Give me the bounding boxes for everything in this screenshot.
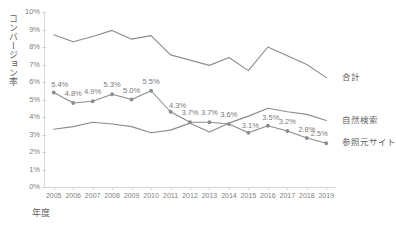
x-tick-label: 2007 — [85, 192, 101, 199]
data-point-marker — [247, 131, 251, 135]
data-point-marker — [52, 91, 56, 95]
x-tick — [326, 187, 327, 190]
y-tick-label: 10% — [25, 8, 40, 16]
data-label: 3.1% — [242, 122, 259, 130]
x-tick — [73, 187, 74, 190]
x-tick-label: 2018 — [299, 192, 315, 199]
series-label: 自然検索 — [342, 116, 378, 125]
data-point-marker — [130, 98, 134, 102]
data-point-marker — [188, 120, 192, 124]
x-tick — [268, 187, 269, 190]
x-tick — [209, 187, 210, 190]
y-tick-label: 3% — [29, 131, 40, 139]
x-tick — [151, 187, 152, 190]
data-label: 3.6% — [220, 111, 237, 119]
x-tick — [287, 187, 288, 190]
data-label: 2.5% — [311, 131, 328, 139]
data-point-marker — [149, 89, 153, 93]
y-tick-label: 1% — [29, 166, 40, 174]
x-tick-label: 2005 — [46, 192, 62, 199]
data-label: 3.5% — [262, 114, 279, 122]
y-axis-title: コンバージョン率 — [4, 14, 18, 86]
data-label: 3.7% — [201, 110, 218, 118]
x-tick-label: 2006 — [65, 192, 81, 199]
x-tick — [93, 187, 94, 190]
data-point-marker — [227, 122, 231, 126]
data-point-marker — [285, 129, 289, 133]
x-tick — [112, 187, 113, 190]
data-point-marker — [305, 136, 309, 140]
series-label: 合計 — [342, 73, 360, 82]
x-tick-label: 2014 — [221, 192, 237, 199]
x-tick-label: 2015 — [241, 192, 257, 199]
x-tick-label: 2019 — [318, 192, 334, 199]
x-tick — [307, 187, 308, 190]
data-point-marker — [110, 92, 114, 96]
data-label: 5.4% — [51, 81, 68, 89]
y-tick-label: 7% — [29, 61, 40, 69]
y-tick-label: 5% — [29, 96, 40, 104]
x-tick — [171, 187, 172, 190]
y-tick-label: 8% — [29, 43, 40, 51]
y-tick-label: 6% — [29, 78, 40, 86]
data-point-marker — [208, 120, 212, 124]
data-point-marker — [169, 110, 173, 114]
y-tick-label: 4% — [29, 113, 40, 121]
y-tick — [42, 187, 46, 188]
x-tick-label: 2010 — [143, 192, 159, 199]
data-point-marker — [71, 101, 75, 105]
data-label: 4.8% — [65, 90, 82, 98]
x-tick-label: 2013 — [202, 192, 218, 199]
series-label: 参照元サイト — [342, 138, 396, 147]
data-label: 3.7% — [181, 110, 198, 118]
x-tick-label: 2017 — [280, 192, 296, 199]
x-tick-label: 2011 — [163, 192, 178, 199]
series-lines — [44, 12, 336, 187]
data-point-marker — [266, 124, 270, 128]
series-line — [54, 30, 327, 77]
y-tick-label: 2% — [29, 148, 40, 156]
data-point-marker — [324, 141, 328, 145]
x-tick-label: 2009 — [124, 192, 140, 199]
x-tick-label: 2016 — [260, 192, 276, 199]
x-tick-label: 2012 — [182, 192, 198, 199]
y-tick-label: 0% — [29, 183, 40, 191]
x-tick — [132, 187, 133, 190]
data-label: 5.5% — [143, 78, 160, 86]
plot-area: 0%1%2%3%4%5%6%7%8%9%10% 2005200620072008… — [44, 12, 336, 187]
data-label: 5.0% — [123, 87, 140, 95]
x-tick — [190, 187, 191, 190]
x-tick — [229, 187, 230, 190]
x-tick-label: 2008 — [104, 192, 120, 199]
x-tick — [248, 187, 249, 190]
data-point-marker — [91, 99, 95, 103]
x-tick — [54, 187, 55, 190]
data-label: 5.3% — [104, 82, 121, 90]
y-tick-label: 9% — [29, 26, 40, 34]
data-label: 3.2% — [279, 118, 296, 126]
data-label: 4.9% — [84, 89, 101, 97]
x-axis-title: 年度 — [32, 206, 50, 219]
